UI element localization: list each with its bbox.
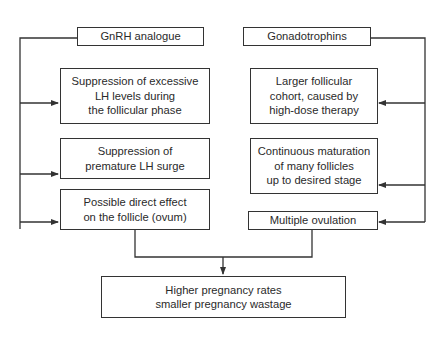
merge-line — [135, 229, 312, 257]
gonadotrophins-box: Gonadotrophins — [243, 27, 371, 46]
right-effect-box-1: Larger follicular cohort, caused by high… — [250, 68, 378, 124]
gonadotrophins-label: Gonadotrophins — [267, 29, 347, 44]
left-effect-box-2: Suppression of premature LH surge — [60, 138, 210, 179]
right-effect-label-3: Multiple ovulation — [270, 213, 356, 228]
left-effect-label-2: Suppression of premature LH surge — [85, 144, 185, 173]
left-effect-label-3: Possible direct effect on the follicle (… — [83, 195, 186, 224]
outcome-label: Higher pregnancy rates smaller pregnancy… — [155, 283, 291, 312]
left-effect-box-1: Suppression of excessive LH levels durin… — [60, 68, 210, 124]
right-effect-box-3: Multiple ovulation — [248, 211, 378, 230]
gnrh-analogue-label: GnRH analogue — [100, 29, 180, 44]
right-effect-label-1: Larger follicular cohort, caused by high… — [269, 74, 359, 118]
right-effect-label-2: Continuous maturation of many follicles … — [258, 144, 371, 188]
gnrh-analogue-box: GnRH analogue — [77, 27, 204, 46]
right-effect-box-2: Continuous maturation of many follicles … — [250, 138, 378, 194]
right-trunk-line — [370, 38, 425, 222]
outcome-box: Higher pregnancy rates smaller pregnancy… — [101, 276, 346, 318]
left-effect-label-1: Suppression of excessive LH levels durin… — [72, 74, 199, 118]
left-effect-box-3: Possible direct effect on the follicle (… — [60, 189, 210, 230]
